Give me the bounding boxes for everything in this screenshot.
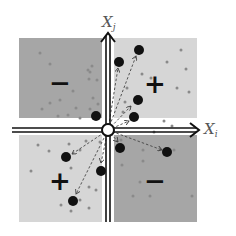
- sign-top-right: +: [144, 69, 166, 99]
- horizontal-axis-label: Xi: [203, 120, 218, 139]
- sign-bottom-right: −: [144, 166, 166, 196]
- sign-top-left: −: [49, 68, 71, 98]
- origin-marker: [102, 124, 114, 136]
- quadrant-diagram: − + + − Xj Xi: [0, 0, 236, 236]
- vertical-axis-label: Xj: [101, 13, 116, 32]
- sign-bottom-left: +: [49, 166, 71, 196]
